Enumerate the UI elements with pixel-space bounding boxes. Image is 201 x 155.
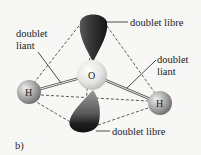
- label-lone-pair-top: doublet libre: [130, 17, 184, 28]
- hydrogen-symbol-right: H: [156, 98, 163, 109]
- label-bond-right-1: doublet: [157, 54, 189, 65]
- hydrogen-symbol-left: H: [25, 87, 32, 98]
- label-lone-pair-bottom: doublet libre: [112, 126, 166, 137]
- top-lone-pair-lobe: [80, 15, 108, 63]
- bottom-lone-pair-lobe: [70, 90, 100, 132]
- diagram-svg: O H H doublet libre doublet liant double…: [0, 0, 201, 155]
- label-bond-left-1: doublet: [16, 28, 48, 39]
- water-tetrahedral-diagram: O H H doublet libre doublet liant double…: [0, 0, 201, 155]
- panel-label: b): [15, 140, 24, 152]
- oxygen-symbol: O: [88, 70, 95, 81]
- label-bond-left-2: liant: [16, 40, 35, 51]
- label-bond-right-2: liant: [157, 66, 176, 77]
